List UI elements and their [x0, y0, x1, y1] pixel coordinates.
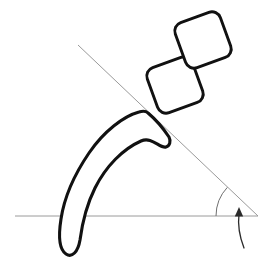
rotation-arrow — [239, 214, 244, 248]
diagram-canvas — [0, 0, 269, 265]
claw-angle-figure — [0, 0, 269, 265]
claw-outline — [60, 111, 170, 255]
angle-arc — [216, 187, 227, 216]
rotation-arrow-head-icon — [235, 207, 243, 217]
